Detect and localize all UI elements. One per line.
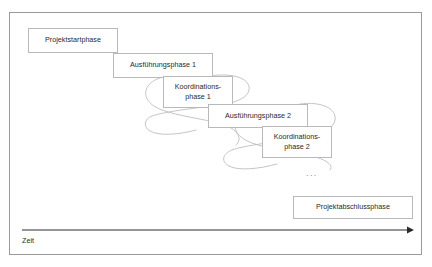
time-axis-label: Zeit — [22, 236, 34, 245]
phase-diagram-canvas: Projektstartphase Ausführungsphase 1 Koo… — [0, 0, 432, 267]
phase-box-ausfuehrungsphase-1[interactable]: Ausführungsphase 1 — [113, 53, 213, 78]
phase-box-koordinationsphase-2[interactable]: Koordinations- phase 2 — [262, 126, 332, 158]
phase-box-projektstartphase[interactable]: Projektstartphase — [28, 28, 118, 53]
phase-box-ausfuehrungsphase-2[interactable]: Ausführungsphase 2 — [208, 104, 308, 128]
phase-box-projektabschlussphase[interactable]: Projektabschlussphase — [293, 196, 413, 219]
continuation-ellipsis: ... — [306, 168, 318, 178]
